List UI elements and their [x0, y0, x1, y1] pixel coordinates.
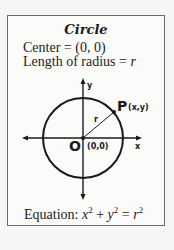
x-axis-right-arrow-icon [136, 136, 142, 141]
point-p [112, 110, 116, 114]
y-axis-bottom-arrow-icon [81, 194, 86, 200]
radius-line-label: r [94, 115, 98, 124]
point-p-label: P [117, 98, 127, 114]
y-axis-top-arrow-icon [81, 78, 86, 84]
circle-diagram: P (x,y) O (0,0) r x y [0, 0, 174, 250]
point-p-coords: (x,y) [128, 103, 149, 112]
origin-label: O [69, 138, 81, 154]
x-axis-left-arrow-icon [22, 136, 28, 141]
y-axis-label: y [87, 81, 93, 90]
x-axis-label: x [135, 142, 141, 151]
radius-line [83, 112, 114, 138]
origin-point [81, 136, 85, 140]
origin-coords: (0,0) [87, 142, 108, 151]
